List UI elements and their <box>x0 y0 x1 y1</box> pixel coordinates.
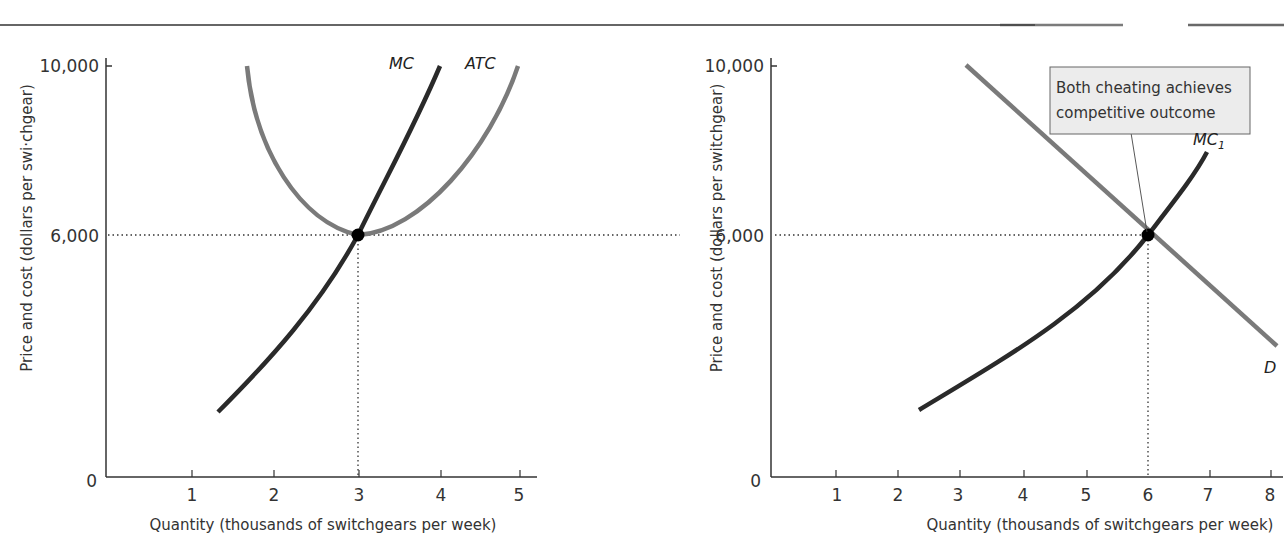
left-x-tick-2: 2 <box>269 485 280 505</box>
right-y-axis-title: Price and cost (dollars per switchgear) <box>708 84 726 373</box>
demand-label: D <box>1264 358 1276 377</box>
right-x-tick-2: 2 <box>893 485 904 505</box>
left-x-axis-title: Quantity (thousands of switchgears per w… <box>150 516 497 534</box>
left-x-tick-5: 5 <box>514 485 525 505</box>
right-y-tick-0: 0 <box>750 471 761 491</box>
callout-line-2: competitive outcome <box>1056 104 1216 122</box>
mc-label: MC <box>389 54 415 73</box>
right-y-tick-10000: 10,000 <box>705 56 764 76</box>
left-x-tick-4: 4 <box>436 485 447 505</box>
atc-label: ATC <box>464 54 497 73</box>
mc1-curve <box>919 152 1207 410</box>
right-x-tick-1: 1 <box>832 485 843 505</box>
right-x-tick-5: 5 <box>1081 485 1092 505</box>
left-equilibrium-point <box>352 229 365 242</box>
left-y-tick-6000: 6,000 <box>50 226 99 246</box>
right-x-tick-7: 7 <box>1203 485 1214 505</box>
right-x-tick-8: 8 <box>1265 485 1276 505</box>
left-x-tick-1: 1 <box>187 485 198 505</box>
callout-line-1: Both cheating achieves <box>1056 79 1232 97</box>
left-chart: 1 2 3 4 5 10,000 6,000 0 Quantity (thous… <box>18 54 680 534</box>
right-x-axis-title: Quantity (thousands of switchgears per w… <box>927 516 1274 534</box>
mc-curve <box>218 66 440 412</box>
right-x-tick-6: 6 <box>1143 485 1154 505</box>
right-x-tick-3: 3 <box>953 485 964 505</box>
right-x-tick-4: 4 <box>1018 485 1029 505</box>
left-y-tick-10000: 10,000 <box>40 56 99 76</box>
atc-curve <box>247 66 518 235</box>
right-equilibrium-point <box>1142 229 1155 242</box>
left-y-axis-title: Price and cost (dollars per swi·chgear) <box>18 84 36 371</box>
left-y-tick-0: 0 <box>86 471 97 491</box>
figure: 1 2 3 4 5 10,000 6,000 0 Quantity (thous… <box>0 0 1284 539</box>
left-x-tick-3: 3 <box>354 485 365 505</box>
right-chart: 1 2 3 4 5 6 7 8 10,000 6,000 0 Quantity … <box>705 56 1283 534</box>
